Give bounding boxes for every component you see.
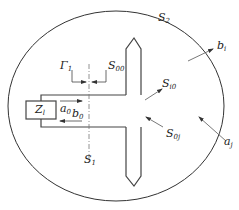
label-s2-base: S xyxy=(158,11,166,24)
label-bi-sub: i xyxy=(224,45,226,53)
label-si0-sub: i0 xyxy=(170,83,177,91)
label-s00-sub: 00 xyxy=(116,65,125,73)
label-s1: S1 xyxy=(84,154,96,167)
label-si0-base: S xyxy=(162,77,170,90)
label-b0: b0 xyxy=(72,108,84,121)
s00-bracket xyxy=(92,70,106,82)
label-s0j-base: S xyxy=(166,127,174,140)
label-a0-sub: 0 xyxy=(67,108,71,116)
label-si0: Si0 xyxy=(162,78,176,91)
label-s00: S00 xyxy=(108,60,124,73)
label-aj: aj xyxy=(224,136,233,149)
label-zl: Zl xyxy=(35,104,45,117)
label-s0j-sub: 0j xyxy=(174,133,181,141)
label-b0-base: b xyxy=(72,107,79,120)
gamma1-bracket xyxy=(72,70,86,82)
label-aj-sub: j xyxy=(231,141,233,149)
si0-arrow xyxy=(145,89,162,100)
label-a0: a0 xyxy=(60,103,71,116)
label-s2: S2 xyxy=(158,12,170,25)
label-gamma1: Γ1 xyxy=(60,60,72,73)
antenna-lower-arm xyxy=(126,127,141,186)
label-s1-base: S xyxy=(84,153,92,166)
label-zl-base: Z xyxy=(35,103,43,116)
label-bi-base: b xyxy=(217,39,224,52)
label-zl-sub: l xyxy=(43,109,45,117)
bi-arrow xyxy=(188,49,213,61)
label-gamma1-sub: 1 xyxy=(68,65,72,73)
label-gamma1-base: Γ xyxy=(60,59,68,72)
label-s00-base: S xyxy=(108,59,116,72)
aj-arrow xyxy=(199,117,226,141)
label-s2-sub: 2 xyxy=(166,17,170,25)
antenna-upper-arm xyxy=(126,38,141,95)
label-bi: bi xyxy=(217,40,226,53)
s0j-arrow xyxy=(146,117,163,127)
label-s0j: S0j xyxy=(166,128,180,141)
label-b0-sub: 0 xyxy=(79,113,83,121)
label-s1-sub: 1 xyxy=(92,159,96,167)
